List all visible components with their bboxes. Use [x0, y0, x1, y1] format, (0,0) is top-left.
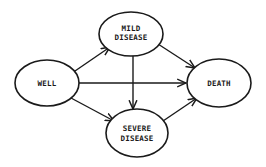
edge-severe-to-death — [163, 98, 197, 121]
node-severe-disease: SEVERE DISEASE — [106, 109, 168, 157]
node-well-label: WELL — [38, 79, 57, 88]
state-diagram: MILD DISEASE WELL DEATH SEVERE DISEASE — [0, 0, 266, 167]
node-well: WELL — [15, 60, 79, 106]
node-mild-disease: MILD DISEASE — [99, 12, 163, 56]
node-severe-label-line2: DISEASE — [120, 134, 153, 143]
node-severe-label-line1: SEVERE — [123, 124, 152, 133]
node-mild-label-line2: DISEASE — [114, 33, 147, 42]
edge-well-to-severe — [71, 98, 114, 121]
edge-well-to-mild — [75, 47, 110, 71]
node-death-label: DEATH — [207, 79, 231, 88]
node-death: DEATH — [187, 59, 251, 107]
edge-mild-to-death — [158, 44, 195, 68]
node-mild-label-line1: MILD — [122, 24, 141, 33]
